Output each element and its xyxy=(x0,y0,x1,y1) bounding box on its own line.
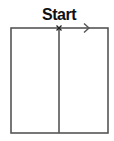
diagram-canvas xyxy=(0,0,114,141)
